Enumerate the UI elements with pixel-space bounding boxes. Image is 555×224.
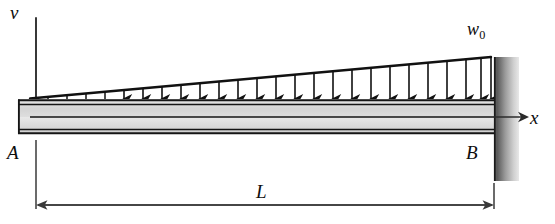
x-axis-label: x [530, 108, 538, 127]
span-length-label: L [256, 182, 267, 201]
beam-member [18, 99, 494, 134]
point-a-label: A [7, 143, 19, 162]
beam-diagram-figure: v w0 x A B L [0, 0, 555, 224]
point-b-label: B [466, 143, 478, 162]
fixed-support-wall [494, 57, 519, 181]
load-intensity-symbol: w [467, 19, 479, 39]
load-intensity-subscript: 0 [479, 28, 485, 42]
load-intensity-label: w0 [467, 20, 485, 41]
v-axis-label: v [10, 3, 18, 22]
distributed-load [30, 57, 491, 99]
